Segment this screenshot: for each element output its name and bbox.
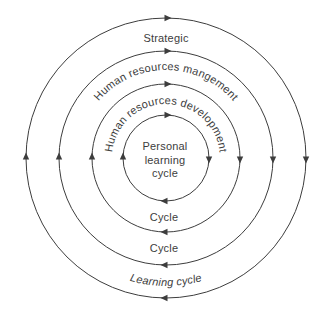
- center-line-3: cycle: [152, 167, 178, 179]
- arrowhead-up-icon: [89, 153, 95, 160]
- arrowhead-up-icon: [56, 153, 62, 160]
- arrowhead-down-icon: [270, 157, 276, 164]
- arrowhead-left-icon: [161, 295, 168, 301]
- arrowhead-up-icon: [120, 153, 126, 160]
- center-line-2: learning: [145, 154, 186, 166]
- arrowhead-right-icon: [165, 15, 172, 21]
- label-cycle-middle: Cycle: [150, 242, 179, 254]
- label-learning-cycle-text: Learning cycle: [129, 271, 203, 288]
- arrowhead-right-icon: [165, 48, 172, 54]
- arrowhead-left-icon: [161, 229, 168, 235]
- center-line-1: Personal: [142, 140, 187, 152]
- label-cycle-inner: Cycle: [150, 211, 179, 223]
- concentric-learning-cycles-diagram: Strategic Human resources mangement Huma…: [0, 0, 323, 316]
- label-learning-cycle: Learning cycle: [129, 271, 203, 288]
- diagram-canvas: Strategic Human resources mangement Huma…: [0, 0, 323, 316]
- arrowhead-left-icon: [161, 198, 168, 204]
- arrowhead-up-icon: [23, 153, 29, 160]
- arrowhead-down-icon: [206, 157, 212, 164]
- arrowhead-down-icon: [303, 157, 309, 164]
- arrowhead-left-icon: [161, 262, 168, 268]
- label-personal-learning-cycle: Personal learning cycle: [142, 140, 187, 179]
- arrowhead-down-icon: [237, 157, 243, 164]
- label-strategic: Strategic: [143, 32, 189, 44]
- arrowhead-right-icon: [165, 112, 172, 118]
- arrowhead-right-icon: [165, 81, 172, 87]
